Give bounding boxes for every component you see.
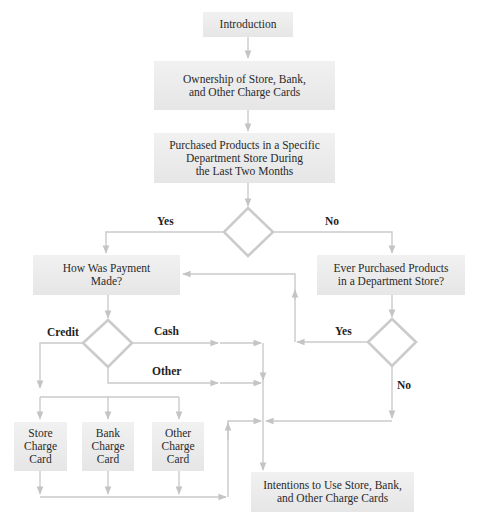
other-charge-card-box: Other Charge Card — [152, 422, 204, 471]
cash-label: Cash — [154, 325, 179, 337]
purchased-products-box: Purchased Products in a Specific Departm… — [154, 133, 335, 183]
flowchart: Introduction Ownership of Store, Bank, a… — [0, 0, 484, 532]
ever-purchased-box: Ever Purchased Products in a Department … — [317, 255, 465, 295]
yes-label-2: Yes — [335, 325, 352, 337]
payment-method-box: How Was Payment Made? — [33, 255, 180, 295]
ownership-box: Ownership of Store, Bank, and Other Char… — [154, 61, 335, 110]
no-label-1: No — [325, 215, 339, 227]
bank-charge-card-box: Bank Charge Card — [82, 422, 134, 471]
store-charge-card-box: Store Charge Card — [14, 422, 67, 471]
yes-label-1: Yes — [157, 215, 174, 227]
intentions-box: Intentions to Use Store, Bank, and Other… — [251, 472, 414, 512]
credit-label: Credit — [47, 326, 79, 338]
other-label: Other — [152, 365, 181, 377]
introduction-box: Introduction — [203, 12, 293, 37]
no-label-2: No — [397, 379, 411, 391]
